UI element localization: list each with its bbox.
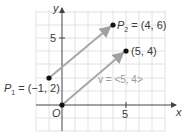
y-tick-label: 5 [50,32,56,44]
origin-label: O [52,107,61,119]
vector-label: v = <5, 4> [98,74,143,85]
x-tick-label: 5 [122,108,128,120]
point-p2 [110,22,115,27]
point-tip [123,48,128,53]
point-p1 [46,75,51,80]
p2-label: P2 = (4, 6) [117,19,166,33]
coordinate-plane: y x 5 5 O P2 = (4, 6) (5, 4) P1 = (−1, 2… [0,0,196,138]
p1-label: P1 = (−1, 2) [4,82,60,96]
x-axis-label: x [175,106,182,118]
tip-label: (5, 4) [131,45,157,57]
